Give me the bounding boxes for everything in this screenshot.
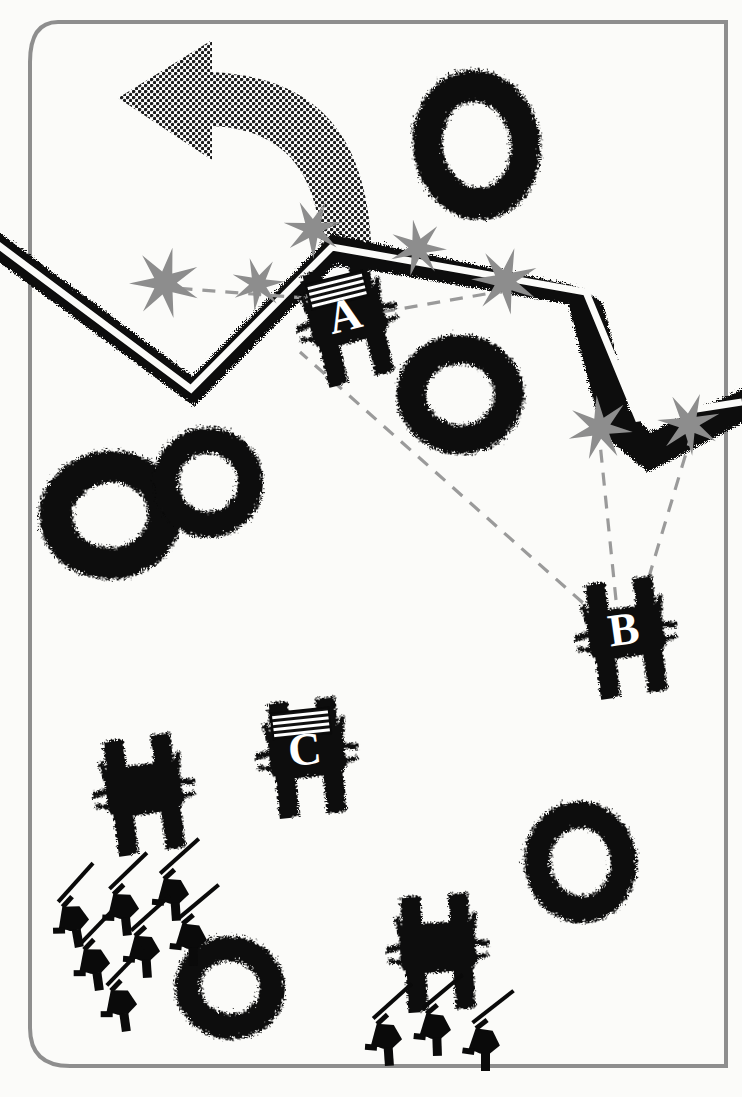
fire-line-b-to-a-flank [300, 352, 600, 618]
crater-1 [408, 67, 540, 218]
burst-1 [129, 248, 198, 318]
tactical-diagram-canvas: ABC [0, 0, 742, 1097]
crater-2 [397, 335, 518, 449]
tank-unit-e [380, 889, 492, 1012]
crater-5 [522, 800, 634, 920]
tank-unit-c: C [247, 693, 363, 819]
infantry-squad-right [350, 973, 529, 1076]
fire-line-b-to-burst-6 [600, 443, 616, 600]
tank-label: C [286, 722, 324, 776]
crater-4 [152, 426, 261, 535]
tank-unit-b: B [565, 571, 685, 700]
rifleman [34, 861, 122, 955]
fire-line-a-to-burst-5 [382, 292, 497, 312]
tactical-scene: ABC [0, 0, 742, 1097]
tank-unit-d [83, 728, 203, 857]
tank-unit-a: A [281, 253, 411, 391]
rifleman [86, 851, 170, 943]
